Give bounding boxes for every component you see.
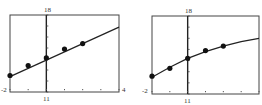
data-point xyxy=(80,41,85,46)
chart-canvas: 18 11 -2 4 18 11 -2 xyxy=(0,0,262,105)
data-point xyxy=(203,48,208,53)
left-xmax-label: 4 xyxy=(122,86,126,94)
left-plot-axes xyxy=(10,15,120,92)
right-xmin-label: -2 xyxy=(142,87,148,95)
right-ymax-label: 18 xyxy=(185,7,193,15)
left-plot: 18 11 -2 4 xyxy=(1,6,126,103)
left-ymax-label: 18 xyxy=(44,6,52,14)
left-plot-frame xyxy=(10,15,119,92)
data-point xyxy=(167,66,172,71)
data-point xyxy=(26,63,31,68)
data-point xyxy=(7,73,12,78)
left-xmin-label: -2 xyxy=(1,86,7,94)
data-point xyxy=(62,47,67,52)
right-fit-curve xyxy=(152,38,259,77)
right-plot-frame xyxy=(152,16,259,94)
data-point xyxy=(185,56,190,61)
right-ymin-label: 11 xyxy=(184,97,191,105)
data-point xyxy=(149,74,154,79)
right-plot-axes xyxy=(152,16,260,94)
left-fit-line xyxy=(10,27,119,77)
data-point xyxy=(221,43,226,48)
left-ymin-label: 11 xyxy=(43,95,50,103)
data-point xyxy=(44,55,49,60)
right-plot: 18 11 -2 xyxy=(142,7,260,105)
